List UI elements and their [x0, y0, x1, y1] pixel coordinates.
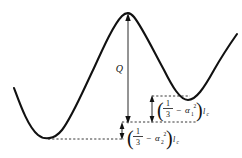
alpha1-paren-close: ): [196, 99, 203, 122]
alpha2-symbol: α: [155, 133, 160, 143]
alpha2-paren-open: (: [127, 127, 134, 150]
alpha2-minus-sign: −: [146, 133, 151, 143]
alpha1-fraction-numerator: 1: [166, 99, 170, 108]
alpha1-minus-sign: −: [176, 105, 181, 115]
alpha2-fraction-denominator: 3: [136, 138, 140, 147]
alpha2-subscript: 2: [161, 139, 164, 145]
alpha1-symbol: α: [185, 105, 190, 115]
alpha1-subscript: 1: [191, 111, 194, 117]
alpha1-fraction-denominator: 3: [166, 110, 170, 119]
alpha2-paren-close: ): [166, 127, 173, 150]
alpha2-fraction-numerator: 1: [136, 127, 140, 136]
q-label: Q: [116, 63, 124, 74]
alpha1-paren-open: (: [157, 99, 164, 122]
potential-curve-figure: Q ( 1 3 − α 1 2 ) l c ( 1 3 − α 2 2 ) l …: [0, 0, 242, 158]
